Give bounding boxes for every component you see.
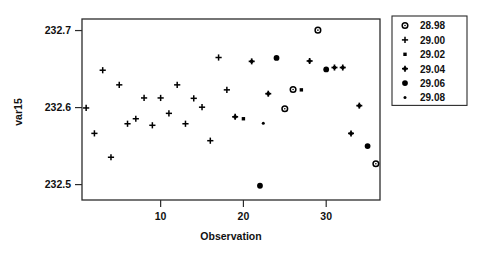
series-29.08: [262, 122, 265, 125]
legend-marker-icon: [404, 96, 407, 99]
data-point: [249, 58, 255, 64]
data-point: [300, 88, 303, 91]
series-28.98: [282, 27, 379, 166]
data-point: [215, 54, 221, 60]
legend-marker-icon: [402, 37, 408, 43]
plot-canvas: 232.5232.6232.7 102030 28.9829.0029.0229…: [0, 0, 483, 257]
data-point: [348, 130, 354, 136]
data-point: [274, 55, 280, 61]
data-point: [265, 91, 271, 97]
legend-label: 29.08: [420, 92, 445, 103]
data-point: [262, 122, 265, 125]
data-point: [116, 82, 122, 88]
y-axis-ticks: 232.5232.6232.7: [45, 24, 82, 190]
data-point: [166, 110, 172, 116]
legend-item[interactable]: 28.98: [402, 20, 445, 31]
legend-marker-icon: [403, 53, 406, 56]
data-point: [91, 130, 97, 136]
data-point: [199, 104, 205, 110]
y-tick-label: 232.6: [45, 101, 71, 113]
data-point: [356, 103, 362, 109]
data-point: [133, 116, 139, 122]
data-point: [373, 161, 379, 167]
data-point: [331, 65, 337, 71]
plot-frame: [82, 19, 380, 200]
data-point: [340, 65, 346, 71]
data-point: [191, 95, 197, 101]
legend-item[interactable]: 29.04: [402, 64, 445, 75]
series-29.04: [232, 58, 362, 136]
legend-marker-icon: [402, 23, 408, 29]
y-tick-label: 232.7: [45, 24, 71, 36]
legend: 28.9829.0029.0229.0429.0629.08: [392, 16, 467, 105]
data-point: [224, 87, 230, 93]
data-point: [290, 87, 296, 93]
legend-label: 29.06: [420, 78, 445, 89]
legend-label: 29.00: [420, 35, 445, 46]
legend-marker-icon: [402, 80, 408, 86]
legend-item[interactable]: 29.06: [402, 78, 445, 89]
y-tick-label: 232.5: [45, 178, 71, 190]
data-point: [207, 138, 213, 144]
data-points-layer: [83, 27, 379, 188]
data-point: [323, 67, 329, 73]
data-point: [124, 121, 130, 127]
data-point: [242, 117, 245, 120]
data-point: [100, 67, 106, 73]
data-point: [141, 95, 147, 101]
series-29.06: [257, 55, 370, 189]
data-point: [315, 27, 321, 33]
data-point: [149, 122, 155, 128]
series-29.00: [83, 54, 230, 160]
data-point: [182, 121, 188, 127]
legend-item[interactable]: 29.00: [402, 35, 446, 46]
data-point: [232, 114, 238, 120]
data-point: [365, 143, 371, 149]
data-point: [108, 154, 114, 160]
x-axis-ticks: 102030: [155, 200, 332, 222]
y-axis-title: var15: [12, 98, 24, 126]
data-point: [83, 105, 89, 111]
legend-item[interactable]: 29.02: [403, 49, 445, 60]
data-point: [307, 58, 313, 64]
x-axis-title: Observation: [200, 230, 261, 242]
x-tick-label: 10: [155, 210, 167, 222]
legend-label: 29.04: [420, 64, 445, 75]
legend-item[interactable]: 29.08: [404, 92, 446, 103]
x-tick-label: 20: [238, 210, 250, 222]
data-point: [158, 95, 164, 101]
data-point: [174, 82, 180, 88]
legend-marker-icon: [402, 66, 408, 72]
scatter-plot-figure: 232.5232.6232.7 102030 28.9829.0029.0229…: [0, 0, 483, 257]
data-point: [282, 106, 288, 112]
legend-label: 29.02: [420, 49, 445, 60]
legend-label: 28.98: [420, 20, 445, 31]
data-point: [257, 183, 263, 189]
x-tick-label: 30: [320, 210, 332, 222]
series-29.02: [242, 88, 303, 120]
